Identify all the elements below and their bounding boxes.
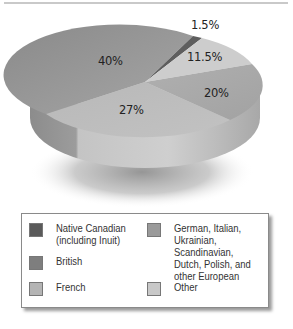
pie-chart <box>0 0 293 210</box>
legend-item-native-canadian: Native Canadian (including Inuit) <box>29 222 134 246</box>
legend-label: Native Canadian (including Inuit) <box>56 222 126 246</box>
legend-swatch <box>147 223 161 237</box>
label-native-canadian: 1.5% <box>191 18 219 32</box>
legend-item-british: British <box>29 255 85 270</box>
label-french: 27% <box>119 103 144 117</box>
legend-item-european: German, Italian, Ukrainian, Scandinavian… <box>147 222 268 282</box>
legend-item-other: Other <box>147 281 200 296</box>
legend-label: French <box>56 281 85 293</box>
legend-swatch <box>29 256 43 270</box>
legend-swatch <box>147 282 161 296</box>
legend-swatch <box>29 282 43 296</box>
legend-swatch <box>29 223 43 237</box>
legend: Native Canadian (including Inuit) Britis… <box>21 213 269 308</box>
legend-label: British <box>56 255 82 267</box>
label-european: 20% <box>204 86 229 100</box>
legend-label: German, Italian, Ukrainian, Scandinavian… <box>174 222 259 282</box>
label-british: 40% <box>98 54 123 68</box>
label-other: 11.5% <box>187 50 222 64</box>
legend-item-french: French <box>29 281 89 296</box>
legend-label: Other <box>174 281 198 293</box>
